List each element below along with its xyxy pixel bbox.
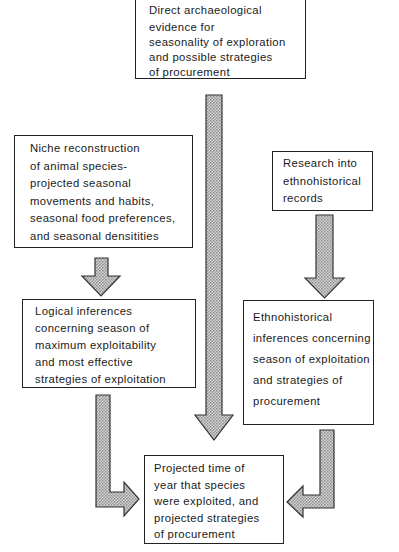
box-line: Niche reconstruction: [30, 140, 192, 158]
arrow-niche-to-logical: [82, 258, 120, 296]
box-line: Research into: [283, 155, 372, 173]
box-line: movements and habits,: [30, 193, 192, 211]
box-line: maximum exploitability: [35, 337, 195, 354]
box-line: Logical inferences: [35, 303, 195, 320]
box-line: projected seasonal: [30, 175, 192, 193]
box-ethnohistorical-research: Research into ethnohistorical records: [272, 151, 373, 211]
box-line: season of exploitation: [253, 349, 373, 370]
box-line: concerning season of: [35, 320, 195, 337]
box-ethnohistorical-inferences: Ethnohistorical inferences concerning se…: [243, 300, 374, 425]
box-line: of procurement: [149, 65, 305, 80]
box-line: Ethnohistorical: [253, 307, 373, 328]
box-line: evidence for: [149, 20, 305, 35]
box-line: seasonal food preferences,: [30, 210, 192, 228]
box-line: inferences concerning: [253, 328, 373, 349]
box-line: of animal species-: [30, 158, 192, 176]
box-line: of procurement: [154, 526, 283, 543]
arrow-direct-to-outcome: [195, 95, 233, 440]
box-line: procurement: [253, 391, 373, 412]
box-line: and possible strategies: [149, 50, 305, 65]
box-line: year that species: [154, 477, 283, 494]
box-line: projected strategies: [154, 510, 283, 527]
box-logical-inferences: Logical inferences concerning season of …: [22, 299, 196, 388]
box-direct-evidence: Direct archaeological evidence for seaso…: [135, 0, 306, 79]
box-niche-reconstruction: Niche reconstruction of animal species- …: [14, 135, 193, 248]
box-line: strategies of exploitation: [35, 371, 195, 388]
box-line: Direct archaeological: [149, 1, 305, 20]
box-projected-outcome: Projected time of year that species were…: [144, 455, 284, 544]
box-line: ethnohistorical: [283, 173, 372, 191]
box-line: records: [283, 190, 372, 208]
arrow-ethno-to-outcome: [287, 430, 334, 517]
box-line: were exploited, and: [154, 493, 283, 510]
box-line: seasonality of exploration: [149, 35, 305, 50]
arrow-logical-to-outcome: [96, 395, 139, 516]
box-line: and strategies of: [253, 370, 373, 391]
box-line: Projected time of: [154, 460, 283, 477]
box-line: and most effective: [35, 354, 195, 371]
arrow-research-to-ethno-inferences: [305, 215, 344, 298]
box-line: and seasonal densitities: [30, 228, 192, 246]
